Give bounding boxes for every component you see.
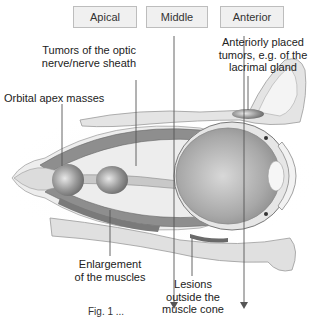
- zone-middle: Middle: [146, 6, 208, 28]
- label-line: tumors, e.g. of the: [218, 49, 308, 62]
- label-line: Anteriorly placed: [218, 36, 308, 49]
- label-anterior-tumors: Anteriorly placed tumors, e.g. of the la…: [218, 36, 308, 74]
- label-line: outside the: [158, 291, 228, 304]
- figure-caption: Fig. 1 ...: [88, 306, 124, 317]
- orbital-apex-mass: [52, 164, 84, 196]
- label-optic-nerve-tumors: Tumors of the optic nerve/nerve sheath: [40, 44, 136, 69]
- zone-anterior-label: Anterior: [233, 11, 272, 23]
- label-muscle-enlargement: Enlargement of the muscles: [74, 258, 146, 283]
- zone-anterior: Anterior: [220, 6, 284, 28]
- label-line: lacrimal gland: [218, 61, 308, 74]
- lens: [268, 161, 284, 191]
- label-line: Lesions: [158, 278, 228, 291]
- label-line: Tumors of the optic: [40, 44, 136, 57]
- label-line: muscle cone: [158, 303, 228, 316]
- label-line: nerve/nerve sheath: [40, 57, 136, 70]
- label-line: of the muscles: [74, 271, 146, 284]
- label-line: Enlargement: [74, 258, 146, 271]
- zone-apical-label: Apical: [90, 11, 120, 23]
- optic-nerve-tumor: [96, 166, 128, 194]
- lacrimal-gland-tumor: [232, 109, 264, 119]
- anterior-arrow-icon: [240, 302, 248, 309]
- zone-middle-label: Middle: [161, 11, 193, 23]
- label-orbital-apex: Orbital apex masses: [4, 92, 104, 105]
- label-extraconal-lesions: Lesions outside the muscle cone: [158, 278, 228, 316]
- zone-apical: Apical: [73, 6, 137, 28]
